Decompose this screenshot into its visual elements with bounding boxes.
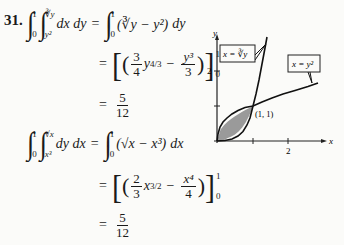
x-axis-label: x	[328, 136, 333, 146]
x-axis-arrow-icon	[321, 139, 327, 143]
callout-label-ysquared: x = y²	[291, 59, 314, 69]
y-tick-label-2: 2	[207, 66, 212, 76]
y-axis-label: y	[212, 28, 217, 38]
intersection-label: (1, 1)	[255, 109, 274, 119]
x-tick-label-2: 2	[286, 146, 291, 156]
callout-label-cbrt: x = ∛y	[222, 48, 247, 59]
region-graph: y x 2 2 (1, 1) x = ∛y x = y²	[0, 0, 344, 245]
